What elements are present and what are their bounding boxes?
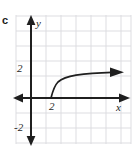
y-tick-label-2: 2 (17, 62, 23, 74)
coordinate-plane: 2 -2 2 y x (0, 0, 133, 154)
x-axis-name-label: x (115, 101, 121, 113)
figure-panel: c (0, 0, 133, 154)
grid-lines (16, 15, 131, 144)
x-axis-arrow-left-icon (13, 94, 23, 103)
x-tick-label-2: 2 (49, 100, 55, 112)
y-axis-arrow-up-icon (27, 15, 36, 25)
y-tick-label-negative-2: -2 (14, 121, 24, 133)
y-axis (27, 15, 36, 146)
curve-series (51, 68, 124, 98)
y-axis-name-label: y (35, 17, 41, 29)
y-axis-arrow-down-icon (27, 136, 36, 146)
